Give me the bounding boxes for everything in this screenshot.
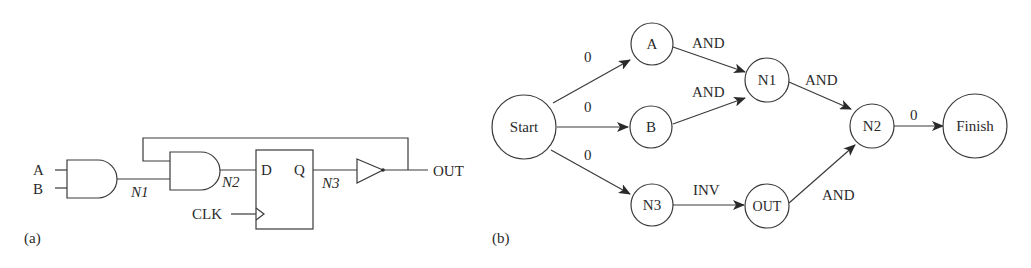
edge-label-n3-out: INV xyxy=(693,182,720,198)
edge-label-n1-n2: AND xyxy=(805,72,838,88)
edge-label-out-n2: AND xyxy=(822,187,855,203)
edge-label-b-n1: AND xyxy=(692,84,725,100)
edge-label-start-b: 0 xyxy=(584,99,592,115)
input-a-label: A xyxy=(33,162,44,178)
and-gate-2 xyxy=(170,152,220,190)
node-out-label: OUT xyxy=(753,199,782,214)
circuit-schematic: A B N1 N2 D Q CLK N3 OUT xyxy=(24,138,464,247)
net-n2-label: N2 xyxy=(221,174,240,190)
edge-label-a-n1: AND xyxy=(692,35,725,51)
clock-triangle-icon xyxy=(256,208,264,220)
timing-graph: 0 0 0 AND AND AND INV AND 0 Start A B N1… xyxy=(492,23,1007,247)
feedback-wire xyxy=(143,138,408,170)
input-b-label: B xyxy=(33,181,43,197)
edge-label-start-a: 0 xyxy=(584,49,592,65)
diagram-canvas: A B N1 N2 D Q CLK N3 OUT xyxy=(0,0,1031,268)
and-gate-1 xyxy=(67,160,117,198)
node-start-label: Start xyxy=(510,119,539,135)
flipflop-q-label: Q xyxy=(294,162,305,178)
clk-label: CLK xyxy=(192,206,222,222)
flipflop-d-label: D xyxy=(261,162,272,178)
node-n3-label: N3 xyxy=(643,197,661,213)
node-n1-label: N1 xyxy=(758,72,776,88)
caption-b: (b) xyxy=(492,230,510,247)
edge-label-n2-finish: 0 xyxy=(910,107,918,123)
caption-a: (a) xyxy=(24,230,41,247)
edge-start-a xyxy=(553,60,630,103)
node-finish-label: Finish xyxy=(956,118,994,134)
node-a-label: A xyxy=(647,36,658,52)
buffer-gate xyxy=(357,159,383,183)
edge-b-n1 xyxy=(673,98,745,124)
node-b-label: B xyxy=(646,119,656,135)
node-n2-label: N2 xyxy=(863,118,881,134)
net-n1-label: N1 xyxy=(130,184,149,200)
edge-label-start-n3: 0 xyxy=(584,147,592,163)
out-label: OUT xyxy=(433,163,464,179)
net-n3-label: N3 xyxy=(321,175,340,191)
